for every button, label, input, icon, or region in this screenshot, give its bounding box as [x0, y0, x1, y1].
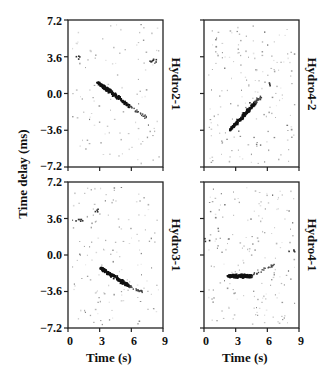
- y-axis-title: Time delay (ms): [15, 122, 31, 226]
- ytick-label: 0.0: [22, 249, 62, 261]
- panel-label-hydro3-1: Hydro3-1: [168, 215, 184, 275]
- xtick-label: 6: [124, 335, 144, 347]
- panel-hydro4-1: [200, 182, 299, 332]
- xtick-label: 0: [196, 335, 216, 347]
- xtick-label: 3: [92, 335, 112, 347]
- xtick-label: 9: [155, 335, 175, 347]
- panel-label-hydro4-2: Hydro4-2: [304, 54, 320, 114]
- xtick-label: 6: [259, 335, 279, 347]
- xtick-label: 0: [60, 335, 80, 347]
- panel-label-hydro4-1: Hydro4-1: [304, 215, 320, 275]
- ytick-label: −7.2: [22, 322, 62, 334]
- figure: 7.2 3.6 0.0 −3.6 −7.2 7.2 3.6 0.0 −3.6 −…: [0, 0, 335, 384]
- panel-hydro2-1: [64, 20, 163, 171]
- x-axis-title-left: Time (s): [86, 350, 132, 366]
- panel-hydro3-1: [64, 182, 163, 332]
- ytick-label: 0.0: [22, 88, 62, 100]
- xtick-label: 3: [228, 335, 248, 347]
- plot-frame: [204, 20, 299, 167]
- xtick-label: 9: [291, 335, 311, 347]
- ytick-label: 7.2: [22, 15, 62, 27]
- ytick-label: −3.6: [22, 285, 62, 297]
- panel-label-hydro2-1: Hydro2-1: [168, 54, 184, 114]
- panel-hydro4-2: [200, 20, 299, 171]
- x-axis-title-right: Time (s): [222, 350, 268, 366]
- ytick-label: 3.6: [22, 52, 62, 64]
